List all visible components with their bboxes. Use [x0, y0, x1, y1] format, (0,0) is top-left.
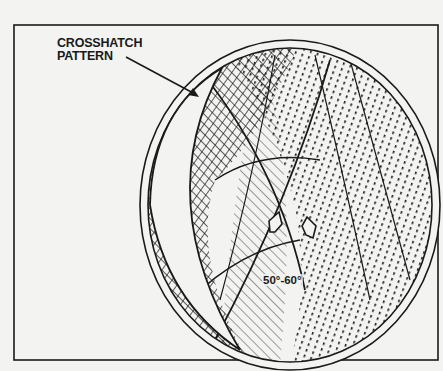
- leader-arrow: [126, 57, 199, 97]
- crosshatch-pattern-label: CROSSHATCH PATTERN: [57, 37, 142, 63]
- angle-label: 50°-60°: [262, 274, 303, 286]
- label-line-2: PATTERN: [57, 50, 142, 63]
